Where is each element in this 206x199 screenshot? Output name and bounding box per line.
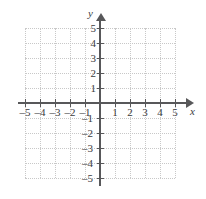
y-tick-mark	[97, 118, 104, 119]
y-tick-label-5: 5	[80, 23, 96, 34]
y-tick-mark	[97, 178, 104, 179]
x-axis-label: x	[190, 106, 195, 117]
x-tick-label-1: 1	[107, 107, 123, 118]
x-tick-label-2: 2	[122, 107, 138, 118]
x-tick-label--4: –4	[32, 107, 48, 118]
y-tick-mark	[97, 73, 104, 74]
y-axis	[99, 20, 101, 186]
x-axis	[18, 102, 188, 104]
x-tick-label--3: –3	[47, 107, 63, 118]
y-axis-arrow-icon	[96, 13, 106, 21]
y-tick-label-3: 3	[80, 53, 96, 64]
y-tick-label--5: –5	[77, 173, 93, 184]
x-tick-label-3: 3	[137, 107, 153, 118]
y-tick-label-2: 2	[80, 68, 96, 79]
x-tick-label--5: –5	[17, 107, 33, 118]
y-tick-mark	[97, 133, 104, 134]
y-tick-label--4: –4	[77, 158, 93, 169]
y-tick-mark	[97, 28, 104, 29]
y-axis-label: y	[88, 8, 93, 19]
x-tick-label-4: 4	[152, 107, 168, 118]
y-tick-mark	[97, 148, 104, 149]
y-tick-mark	[97, 58, 104, 59]
y-tick-mark	[97, 88, 104, 89]
y-tick-label-4: 4	[80, 38, 96, 49]
x-tick-label--2: –2	[62, 107, 78, 118]
y-tick-mark	[97, 43, 104, 44]
y-tick-mark	[97, 163, 104, 164]
y-tick-label--2: –2	[77, 128, 93, 139]
y-tick-label--3: –3	[77, 143, 93, 154]
y-tick-label--1: –1	[77, 113, 93, 124]
y-tick-label-1: 1	[80, 83, 96, 94]
coordinate-plane: –5 –4 –3 –2 –1 1 2 3 4 5 5 4 3 2 1 –1 –2…	[0, 0, 206, 199]
x-tick-label-5: 5	[167, 107, 183, 118]
